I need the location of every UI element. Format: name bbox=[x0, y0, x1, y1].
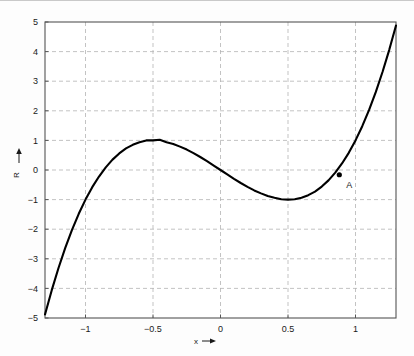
chart-figure: 543210−1−2−3−4−5 −1−0.500.51 A R x bbox=[0, 0, 414, 356]
point-a-label: A bbox=[346, 180, 352, 190]
y-tick-label: 4 bbox=[33, 47, 38, 57]
y-tick-label: −1 bbox=[28, 195, 38, 205]
x-tick-label: 0 bbox=[218, 324, 223, 334]
x-axis-title-text: x bbox=[194, 337, 198, 346]
y-axis-title-text: R bbox=[12, 172, 21, 178]
x-tick-label: −0.5 bbox=[144, 324, 162, 334]
y-tick-label: 0 bbox=[33, 165, 38, 175]
y-tick-label: −3 bbox=[28, 254, 38, 264]
y-axis-arrow-head bbox=[16, 148, 22, 154]
y-tick-label: −5 bbox=[28, 313, 38, 323]
y-tick-label: 1 bbox=[33, 136, 38, 146]
x-axis-title: x bbox=[194, 337, 216, 346]
x-tick-label: −1 bbox=[80, 324, 90, 334]
point-a-marker bbox=[337, 172, 342, 177]
y-tick-label: 5 bbox=[33, 17, 38, 27]
plot-canvas: 543210−1−2−3−4−5 −1−0.500.51 A R x bbox=[0, 0, 414, 356]
x-axis-arrow-head bbox=[210, 338, 216, 343]
y-tick-label: −2 bbox=[28, 224, 38, 234]
y-axis-title: R bbox=[12, 148, 22, 178]
x-tick-labels: −1−0.500.51 bbox=[80, 324, 358, 334]
y-tick-label: −4 bbox=[28, 284, 38, 294]
y-tick-label: 3 bbox=[33, 76, 38, 86]
x-tick-label: 0.5 bbox=[282, 324, 295, 334]
x-tick-label: 1 bbox=[353, 324, 358, 334]
y-tick-labels: 543210−1−2−3−4−5 bbox=[28, 17, 38, 323]
y-tick-label: 2 bbox=[33, 106, 38, 116]
